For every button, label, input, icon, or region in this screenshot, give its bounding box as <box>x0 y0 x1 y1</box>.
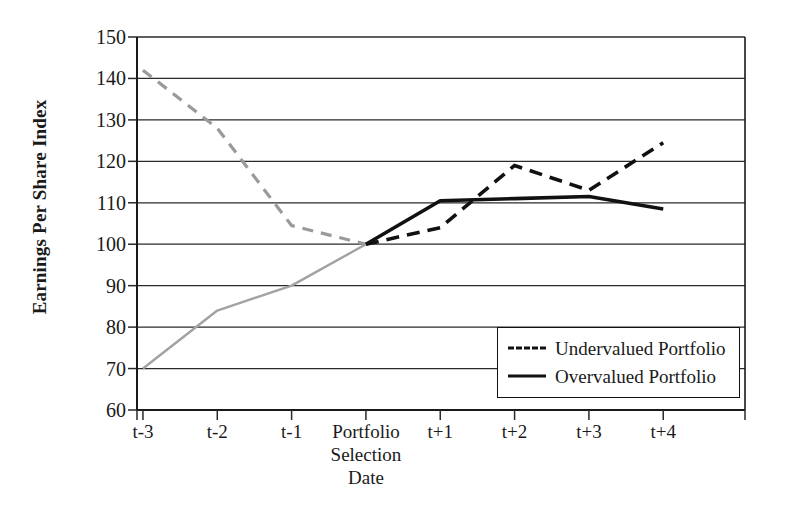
y-axis-tick-label: 110 <box>52 193 126 213</box>
y-axis-tick-label: 90 <box>52 276 126 296</box>
legend-item-undervalued: Undervalued Portfolio <box>508 334 725 362</box>
solid-line-swatch-icon <box>508 369 546 383</box>
series-line-undervalued <box>366 143 663 245</box>
legend-item-overvalued: Overvalued Portfolio <box>508 362 725 390</box>
series-line-overvalued <box>143 244 366 368</box>
y-axis-tick-labels: 15014013012011010090807060 <box>52 37 126 410</box>
y-axis-title: Earnings Per Share Index <box>29 7 51 407</box>
x-axis-tick-label: t+4 <box>650 420 676 443</box>
y-axis-tick-label: 80 <box>52 317 126 337</box>
y-axis-tick-label: 60 <box>52 400 126 420</box>
x-axis-tick-label: t-3 <box>132 420 153 443</box>
x-axis-tick-label: t-1 <box>281 420 302 443</box>
chart-legend: Undervalued Portfolio Overvalued Portfol… <box>497 327 740 398</box>
y-axis-tick-label: 150 <box>52 27 126 47</box>
y-axis-tick-label: 130 <box>52 110 126 130</box>
series-line-undervalued <box>143 70 366 244</box>
y-axis-tick-label: 100 <box>52 234 126 254</box>
y-axis-tick-label: 140 <box>52 68 126 88</box>
x-axis-tick-label: t-2 <box>207 420 228 443</box>
x-axis-tick-label: t+2 <box>502 420 528 443</box>
x-axis-tick-label: t+1 <box>428 420 454 443</box>
x-axis-tick-label: Portfolio Selection Date <box>331 420 402 490</box>
legend-label-overvalued: Overvalued Portfolio <box>555 367 716 386</box>
legend-label-undervalued: Undervalued Portfolio <box>555 339 725 358</box>
y-axis-tick-label: 70 <box>52 359 126 379</box>
chart-figure: Earnings Per Share Index 150140130120110… <box>0 0 788 518</box>
y-axis-tick-label: 120 <box>52 151 126 171</box>
x-axis-tick-label: t+3 <box>576 420 602 443</box>
x-axis-tick-labels: t-3t-2t-1Portfolio Selection Datet+1t+2t… <box>0 420 788 515</box>
series-line-overvalued <box>366 197 663 245</box>
dashed-line-swatch-icon <box>508 341 546 355</box>
